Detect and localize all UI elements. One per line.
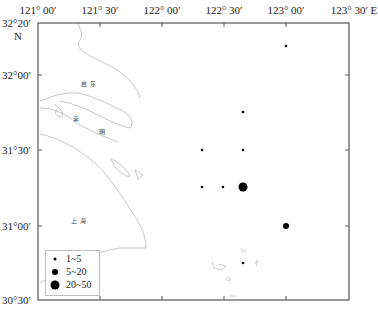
- lat-label-31-00: 31°00′: [2, 220, 31, 232]
- legend-item-1-5: 1~5: [46, 253, 99, 265]
- legend-label: 20~50: [66, 279, 91, 291]
- medium-dot-icon: [52, 269, 58, 275]
- small-dot-icon: [54, 258, 57, 261]
- sampling-points: [201, 45, 289, 265]
- point-1-5: [201, 186, 204, 189]
- place-label-shanghai: 上海: [71, 216, 89, 225]
- large-dot-icon: [51, 281, 60, 290]
- legend-label: 1~5: [66, 253, 81, 265]
- north-label: N: [14, 30, 22, 42]
- point-5-20: [283, 223, 289, 229]
- lat-label-32-00: 32°00′: [2, 69, 31, 81]
- legend-label: 5~20: [66, 266, 86, 278]
- lon-label-122-30: 122° 30′: [205, 4, 242, 16]
- lon-label-123-00: 123° 00′: [267, 4, 304, 16]
- point-1-5: [242, 149, 245, 152]
- lon-label-123-30: 123° 30′ E: [331, 4, 378, 16]
- lon-label-121-30: 121° 30′: [81, 4, 118, 16]
- point-20-50: [239, 183, 248, 192]
- point-1-5: [201, 149, 204, 152]
- size-legend: 1~5 5~20 20~50: [45, 250, 100, 296]
- legend-item-20-50: 20~50: [46, 279, 99, 291]
- lon-label-121-00: 121° 00′: [19, 4, 56, 16]
- lat-label-32-20: 32°20′: [2, 17, 31, 29]
- place-label-chong: 崇: [73, 114, 82, 123]
- point-1-5: [242, 111, 245, 114]
- point-1-5: [222, 186, 225, 189]
- point-1-5: [285, 45, 288, 48]
- lon-label-122-00: 122° 00′: [143, 4, 180, 16]
- lat-label-30-30: 30°30′: [2, 294, 31, 306]
- point-1-5: [242, 262, 245, 265]
- legend-item-5-20: 5~20: [46, 266, 99, 278]
- lat-label-31-30: 31°30′: [2, 144, 31, 156]
- place-label-ming: 明: [99, 127, 108, 136]
- place-label-qidong: 启东: [81, 79, 99, 88]
